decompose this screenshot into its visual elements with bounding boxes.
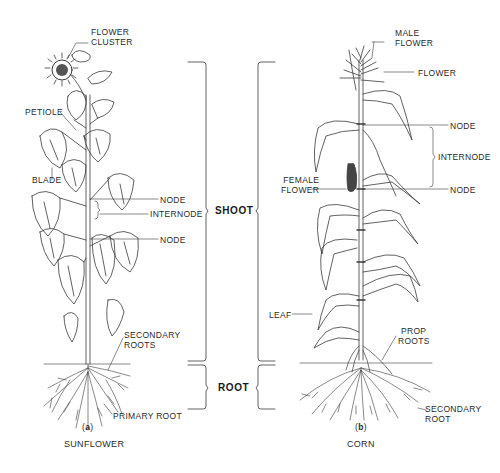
region-brackets bbox=[188, 62, 275, 409]
label-line: SECONDARY bbox=[124, 330, 180, 340]
label-primary-root: PRIMARY ROOT bbox=[113, 411, 182, 421]
label-leaf: LEAF bbox=[269, 310, 291, 320]
label-male-flower: MALE FLOWER bbox=[395, 28, 433, 48]
corn-secondary-roots bbox=[300, 368, 430, 420]
region-label-root: ROOT bbox=[218, 383, 249, 393]
panel-label-a: (a) bbox=[82, 422, 93, 432]
label-internode-corn: INTERNODE bbox=[438, 152, 491, 162]
label-blade: BLADE bbox=[32, 175, 61, 185]
label-line: SECONDARY bbox=[425, 404, 481, 414]
label-line: ROOTS bbox=[398, 336, 430, 346]
sunflower-illustration bbox=[32, 43, 158, 430]
label-flower-cluster: FLOWER CLUSTER bbox=[91, 27, 133, 47]
corn-prop-roots bbox=[346, 346, 392, 374]
label-line: FLOWER bbox=[91, 27, 133, 37]
label-line: ROOT bbox=[425, 414, 481, 424]
label-line: CLUSTER bbox=[91, 37, 133, 47]
label-line: FLOWER bbox=[281, 185, 319, 195]
corn-illustration bbox=[292, 42, 448, 420]
label-prop-roots: PROP ROOTS bbox=[398, 326, 430, 346]
label-node-upper-corn: NODE bbox=[450, 121, 476, 131]
label-secondary-roots: SECONDARY ROOTS bbox=[124, 330, 180, 350]
region-label-shoot: SHOOT bbox=[215, 206, 254, 216]
label-line: PROP bbox=[398, 326, 430, 336]
caption-corn: CORN bbox=[347, 439, 375, 449]
corn-tassel bbox=[340, 46, 384, 90]
label-flower-corn: FLOWER bbox=[418, 68, 456, 78]
label-petiole: PETIOLE bbox=[25, 107, 63, 117]
plant-structure-diagram: FLOWER CLUSTER PETIOLE BLADE NODE INTERN… bbox=[0, 0, 500, 473]
label-line: FLOWER bbox=[395, 38, 433, 48]
label-secondary-root-corn: SECONDARY ROOT bbox=[425, 404, 481, 424]
panel-label-b: (b) bbox=[355, 422, 367, 432]
panel-letter: b bbox=[358, 422, 364, 432]
label-node-lower-corn: NODE bbox=[450, 185, 476, 195]
label-node-upper-sunflower: NODE bbox=[160, 195, 186, 205]
label-line: MALE bbox=[395, 28, 433, 38]
label-line: FEMALE bbox=[281, 175, 319, 185]
label-female-flower: FEMALE FLOWER bbox=[281, 175, 319, 195]
panel-letter: a bbox=[85, 422, 90, 432]
label-internode-sunflower: INTERNODE bbox=[150, 209, 203, 219]
label-node-lower-sunflower: NODE bbox=[160, 235, 186, 245]
caption-sunflower: SUNFLOWER bbox=[64, 439, 124, 449]
label-line: ROOTS bbox=[124, 340, 180, 350]
